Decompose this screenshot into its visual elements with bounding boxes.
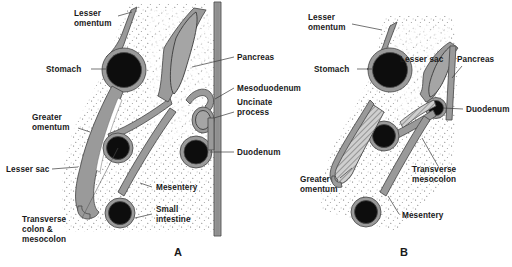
label-mesentery: Mesentery (156, 183, 198, 192)
label-line: Small (156, 205, 178, 214)
label-line: Lesser sac (400, 55, 444, 64)
label-transverse-mesocolon: Transversemesocolon (412, 165, 457, 184)
label-line: mesocolon (412, 175, 456, 184)
label-line: mesocolon (22, 235, 66, 244)
small-intestine-a (105, 198, 135, 228)
label-line: process (237, 108, 269, 117)
label-line: Greater (32, 113, 63, 122)
anatomy-figure-container: LesseromentumStomachGreateromentumLesser… (0, 0, 512, 267)
label-line: Transverse (22, 215, 67, 224)
panel-letter-a: A (174, 246, 182, 258)
label-line: Pancreas (457, 55, 495, 64)
label-line: Lesser (308, 13, 336, 22)
label-line: Duodenum (237, 148, 281, 157)
label-pancreas: Pancreas (237, 53, 275, 62)
label-line: omentum (308, 23, 346, 32)
label-line: Duodenum (466, 105, 510, 114)
stomach-a (102, 48, 146, 92)
label-mesentery: Mesentery (402, 211, 444, 220)
label-line: Transverse (412, 165, 457, 174)
label-pancreas: Pancreas (457, 55, 495, 64)
label-stomach: Stomach (314, 65, 349, 74)
duodenum-a (180, 136, 212, 168)
label-line: omentum (300, 185, 338, 194)
duodenal-attachment-a (208, 118, 214, 150)
label-line: Greater (300, 175, 331, 184)
label-line: Mesentery (156, 183, 198, 192)
posterior-body-wall-a (214, 2, 221, 236)
label-line: omentum (74, 19, 112, 28)
label-uncinate-process: Uncinateprocess (237, 98, 273, 117)
panel-letter-b: B (400, 246, 408, 258)
label-lesser-sac: Lesser sac (6, 165, 50, 174)
small-intestine-b (351, 197, 381, 227)
label-lesser-sac: Lesser sac (400, 55, 444, 64)
label-line: Stomach (46, 65, 81, 74)
label-line: Mesentery (402, 211, 444, 220)
label-line: colon & (22, 225, 53, 234)
label-line: Lesser (74, 9, 102, 18)
label-duodenum: Duodenum (466, 105, 510, 114)
label-mesoduodenum: Mesoduodenum (237, 84, 301, 93)
label-line: Stomach (314, 65, 349, 74)
label-stomach: Stomach (46, 65, 81, 74)
label-line: Pancreas (237, 53, 275, 62)
peritoneal-cavity-diagram: LesseromentumStomachGreateromentumLesser… (0, 0, 512, 267)
label-duodenum: Duodenum (237, 148, 281, 157)
label-line: Mesoduodenum (237, 84, 301, 93)
label-line: intestine (156, 215, 191, 224)
label-line: Lesser sac (6, 165, 50, 174)
label-line: Uncinate (237, 98, 273, 107)
label-line: omentum (32, 123, 70, 132)
